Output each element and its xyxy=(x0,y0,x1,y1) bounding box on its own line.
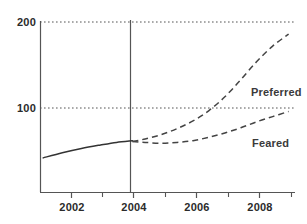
x-axis-label-2002: 2002 xyxy=(56,201,88,213)
y-axis-label-200: 200 xyxy=(8,16,36,28)
series-annotation-preferred: Preferred xyxy=(251,86,302,98)
chart-plot-area xyxy=(0,0,307,224)
x-axis-label-2008: 2008 xyxy=(244,201,276,213)
series-annotation-feared: Feared xyxy=(252,137,289,149)
x-axis-label-2004: 2004 xyxy=(118,201,150,213)
chart-container: 200 100 2002 2004 2006 2008 Preferred Fe… xyxy=(0,0,307,224)
series-line-historical xyxy=(43,141,132,158)
x-axis-label-2006: 2006 xyxy=(181,201,213,213)
y-axis-label-100: 100 xyxy=(8,102,36,114)
